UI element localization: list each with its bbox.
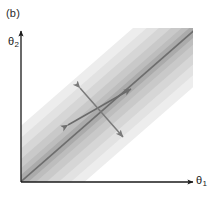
panel-label: (b) bbox=[6, 7, 20, 19]
x-axis-label: θ1 bbox=[196, 174, 207, 188]
figure-panel: (b) θ2 θ1 bbox=[0, 0, 214, 198]
y-axis-label-symbol: θ bbox=[8, 35, 14, 47]
x-axis-label-subscript: 1 bbox=[203, 179, 207, 188]
y-axis-label: θ2 bbox=[8, 35, 19, 49]
contour-band-group bbox=[0, 0, 214, 198]
contour-plot-canvas bbox=[0, 0, 214, 198]
x-axis-label-symbol: θ bbox=[196, 174, 202, 186]
y-axis-label-subscript: 2 bbox=[15, 40, 19, 49]
